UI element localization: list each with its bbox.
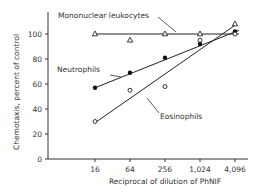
fit-line (95, 30, 239, 88)
y-tick-label: 0 (37, 155, 42, 164)
open-circle-marker (233, 32, 237, 36)
open-circle-marker (163, 85, 167, 89)
x-tick-label: 64 (125, 165, 135, 174)
x-tick-label: 16 (90, 165, 100, 174)
y-tick-label: 100 (28, 30, 43, 39)
x-tick-label: 4,096 (224, 165, 246, 174)
x-axis-label: Reciprocal of dilution of PhNIF (109, 177, 221, 186)
data-markers (92, 21, 237, 124)
open-circle-marker (128, 88, 132, 92)
triangle-marker (127, 37, 132, 42)
mononuclear-annotation: Mononuclear leukocytes (58, 11, 149, 20)
x-tick-label: 1,024 (189, 165, 211, 174)
filled-circle-marker (163, 56, 167, 60)
y-axis-label: Chemotaxis, percent of control (12, 34, 21, 150)
open-circle-marker (93, 120, 97, 124)
y-tick-label: 20 (32, 130, 42, 139)
triangle-marker (232, 21, 237, 26)
neutrophils-annotation: Neutrophils (57, 65, 100, 74)
y-tick-label: 60 (32, 80, 42, 89)
mononuclear-arrow (158, 17, 176, 32)
triangle-marker (197, 31, 202, 36)
fit-line (95, 25, 235, 123)
triangle-marker (162, 31, 167, 36)
fit-lines (95, 25, 239, 123)
eosinophils-annotation: Eosinophils (160, 112, 202, 121)
open-circle-marker (198, 38, 202, 42)
y-ticks: 020406080100 (28, 30, 48, 164)
y-tick-label: 80 (32, 55, 42, 64)
x-tick-label: 256 (158, 165, 173, 174)
chemotaxis-chart: 020406080100 16642561,0244,096 Chemotaxi… (0, 0, 260, 194)
neutrophils-arrow (110, 75, 121, 77)
filled-circle-marker (93, 86, 97, 90)
x-ticks: 16642561,0244,096 (90, 159, 246, 174)
filled-circle-marker (128, 71, 132, 75)
y-tick-label: 40 (32, 105, 42, 114)
eosinophils-arrow (147, 98, 159, 113)
triangle-marker (92, 31, 97, 36)
